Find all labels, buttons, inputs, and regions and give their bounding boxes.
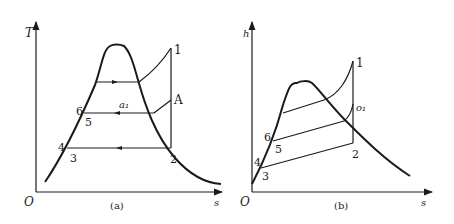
middle-isobar [273, 121, 344, 141]
top-isobar [283, 100, 324, 113]
point-2-label: 2 [352, 148, 359, 161]
point-3-label: 3 [262, 170, 269, 183]
origin-label: O [24, 195, 34, 209]
diagram-canvas: T O s (a) 1 A a₁ 6 5 4 3 2 h O s (b) 1 o… [0, 0, 454, 224]
point-5-label: 5 [85, 116, 92, 129]
point-2-label: 2 [170, 153, 177, 166]
point-6-label: 6 [76, 105, 83, 118]
point-5-label: 5 [275, 143, 282, 156]
h-axis-label: h [243, 28, 249, 39]
origin-label: O [240, 195, 250, 209]
point-a-label: A [173, 93, 183, 107]
ts-diagram: T O s (a) 1 A a₁ 6 5 4 3 2 [24, 22, 222, 211]
s-axis-label: s [214, 197, 219, 208]
point-o1-label: o₁ [356, 102, 366, 113]
caption-b: (b) [334, 200, 348, 211]
point-a1-label: a₁ [119, 99, 129, 110]
point-3-label: 3 [70, 152, 77, 165]
arrow-icon [116, 146, 122, 150]
superheat-curve-1 [139, 48, 171, 82]
point-1-label: 1 [174, 43, 182, 57]
superheat-curve-o [344, 104, 353, 121]
arrow-icon [112, 80, 118, 84]
caption-a: (a) [110, 200, 124, 211]
t-axis-label: T [25, 26, 34, 40]
arrow-icon [114, 111, 120, 115]
hs-diagram: h O s (b) 1 o₁ 6 5 4 3 2 [240, 22, 432, 211]
point-6-label: 6 [264, 131, 271, 144]
point-4-label: 4 [58, 141, 65, 154]
s-axis-label: s [421, 197, 426, 208]
superheat-curve-1 [324, 61, 353, 100]
superheat-curve-a [154, 100, 171, 113]
point-4-label: 4 [254, 156, 261, 169]
point-1-label: 1 [356, 56, 364, 70]
